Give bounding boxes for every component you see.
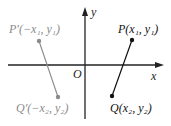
point-q-label: Q(x₂, y₂) [110, 101, 152, 115]
reflection-diagram: y x O P(x₁, y₁) Q(x₂, y₂) P′(−x₁, y₁) Q′… [0, 0, 171, 126]
y-axis-arrow-icon [82, 7, 88, 16]
x-axis-label: x [150, 69, 157, 83]
x-axis [8, 62, 164, 68]
point-q [110, 94, 114, 98]
y-axis-label: y [90, 5, 97, 19]
point-q-prime [56, 95, 60, 99]
segment-p-q [112, 40, 132, 96]
point-q-prime-label: Q′(−x₂, y₂) [16, 101, 68, 115]
segment-p-prime-q-prime [39, 41, 58, 97]
point-p-prime-label: P′(−x₁, y₁) [8, 22, 60, 36]
y-axis [82, 7, 88, 119]
origin-label: O [73, 67, 82, 81]
x-axis-arrow-icon [155, 62, 164, 68]
point-p-label: P(x₁, y₁) [117, 22, 158, 36]
point-p-prime [37, 39, 41, 43]
point-p [130, 38, 134, 42]
